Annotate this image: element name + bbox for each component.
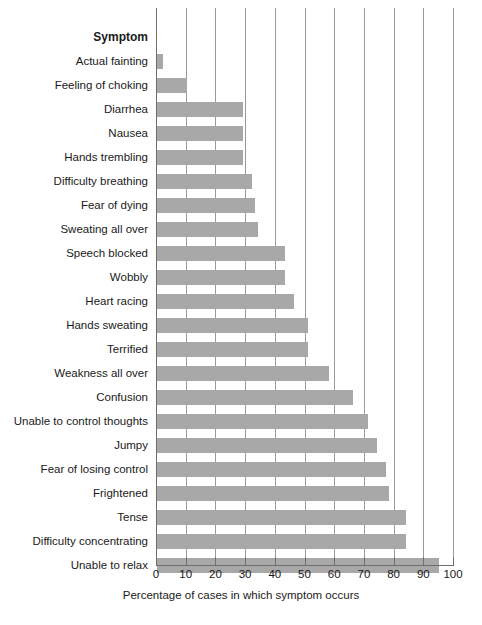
category-label: Heart racing <box>85 294 148 309</box>
category-label: Fear of losing control <box>41 462 148 477</box>
gridline-80 <box>394 8 395 565</box>
gridline-70 <box>364 8 365 565</box>
category-label: Jumpy <box>114 438 148 453</box>
x-tick-40 <box>275 557 276 565</box>
bar <box>157 78 187 93</box>
bar <box>157 270 285 285</box>
x-tick-20 <box>215 557 216 565</box>
bar <box>157 390 353 405</box>
bar <box>157 534 406 549</box>
category-label: Wobbly <box>110 270 148 285</box>
category-label: Hands trembling <box>64 150 148 165</box>
category-label: Confusion <box>96 390 148 405</box>
x-tick-0 <box>156 557 157 565</box>
bar <box>157 150 243 165</box>
category-label: Terrified <box>107 342 148 357</box>
x-tick-80 <box>394 557 395 565</box>
bar <box>157 414 368 429</box>
category-label: Fear of dying <box>81 198 148 213</box>
category-column-header: Symptom <box>93 30 148 45</box>
category-label: Speech blocked <box>66 246 148 261</box>
gridline-50 <box>305 8 306 565</box>
category-label: Unable to control thoughts <box>14 414 148 429</box>
bar <box>157 366 329 381</box>
category-label-column: SymptomActual faintingFeeling of choking… <box>0 0 152 565</box>
plot-area <box>156 8 453 565</box>
bar <box>157 294 294 309</box>
bar <box>157 198 255 213</box>
bar <box>157 222 258 237</box>
category-label: Feeling of choking <box>55 78 148 93</box>
category-label: Sweating all over <box>60 222 148 237</box>
bar <box>157 342 308 357</box>
category-label: Tense <box>117 510 148 525</box>
bar <box>157 438 377 453</box>
x-tick-60 <box>334 557 335 565</box>
category-label: Difficulty breathing <box>54 174 148 189</box>
bar <box>157 174 252 189</box>
category-label: Weakness all over <box>54 366 148 381</box>
x-axis-baseline <box>156 565 454 566</box>
category-label: Nausea <box>108 126 148 141</box>
x-tick-70 <box>364 557 365 565</box>
bar <box>157 102 243 117</box>
bar <box>157 510 406 525</box>
x-tick-90 <box>423 557 424 565</box>
bar <box>157 318 308 333</box>
x-axis-title: Percentage of cases in which symptom occ… <box>0 589 482 601</box>
gridline-20 <box>215 8 216 565</box>
gridline-40 <box>275 8 276 565</box>
category-label: Actual fainting <box>76 54 148 69</box>
category-label: Hands sweating <box>66 318 148 333</box>
x-tick-30 <box>245 557 246 565</box>
category-label: Frightened <box>93 486 148 501</box>
category-label: Diarrhea <box>104 102 148 117</box>
bar <box>157 462 386 477</box>
category-label: Difficulty concentrating <box>33 534 148 549</box>
gridline-100 <box>453 8 454 565</box>
x-tick-label: 100 <box>433 568 473 580</box>
x-tick-10 <box>186 557 187 565</box>
x-tick-50 <box>305 557 306 565</box>
bar <box>157 486 389 501</box>
gridline-60 <box>334 8 335 565</box>
bar <box>157 126 243 141</box>
bar <box>157 54 163 69</box>
x-axis-ticks <box>156 557 454 565</box>
x-tick-100 <box>453 557 454 565</box>
gridline-90 <box>423 8 424 565</box>
bar-chart: SymptomActual faintingFeeling of choking… <box>0 0 482 625</box>
gridline-30 <box>245 8 246 565</box>
bar <box>157 246 285 261</box>
